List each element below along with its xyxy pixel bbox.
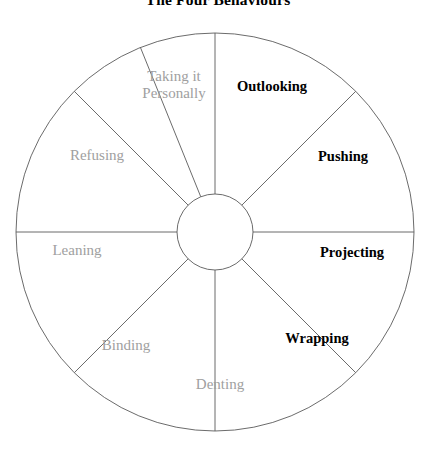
hub-circle xyxy=(177,194,253,270)
segment-label-pushing[interactable]: Pushing xyxy=(318,148,368,164)
wheel-spoke xyxy=(74,259,188,373)
segment-label-wrapping[interactable]: Wrapping xyxy=(285,330,348,346)
segment-label-leaning[interactable]: Leaning xyxy=(52,242,101,259)
segment-label-outlooking[interactable]: Outlooking xyxy=(237,78,307,94)
segment-label-line-2: Personally xyxy=(142,85,205,102)
figure-canvas: The Four Behaviours Outlooking Pushing P… xyxy=(0,0,436,457)
wheel-spoke xyxy=(242,259,356,373)
segment-label-binding[interactable]: Binding xyxy=(102,337,150,354)
segment-label-refusing[interactable]: Refusing xyxy=(70,147,124,164)
behaviour-wheel: Outlooking Pushing Projecting Wrapping D… xyxy=(0,0,436,457)
segment-label-line-1: Taking it xyxy=(142,68,205,85)
segment-label-denting[interactable]: Denting xyxy=(196,376,244,393)
segment-label-taking-it-personally[interactable]: Taking it Personally xyxy=(142,68,205,102)
segment-label-projecting[interactable]: Projecting xyxy=(320,244,384,260)
